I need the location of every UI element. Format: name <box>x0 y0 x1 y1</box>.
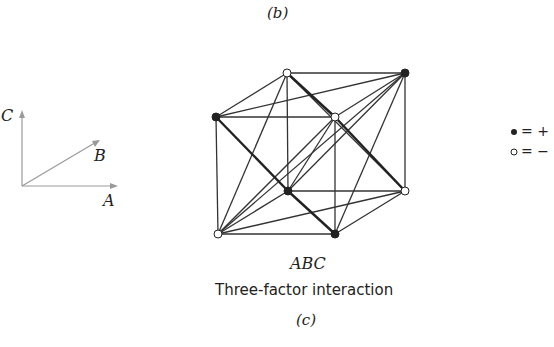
legend-markers <box>0 0 554 347</box>
legend-plus-label: = + <box>521 123 549 139</box>
legend-minus-label: = − <box>521 143 549 159</box>
